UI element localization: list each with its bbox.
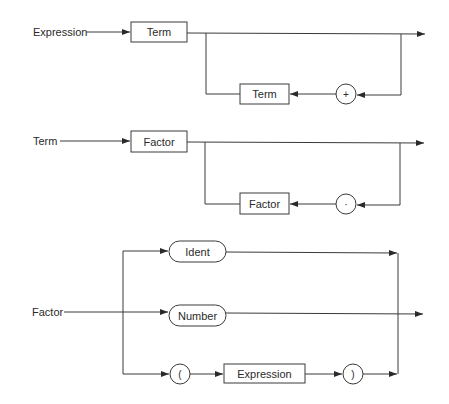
nonterminal-expression-box: Expression (224, 364, 305, 383)
loop-entry-line (357, 34, 401, 95)
loop-factor-box: Factor (240, 193, 289, 214)
loop-return-line (206, 33, 240, 94)
rule-expression: Expression Term Term + (33, 22, 425, 104)
rule-label-expression: Expression (33, 26, 87, 38)
svg-text:Number: Number (178, 310, 217, 322)
exit-arrow (187, 33, 425, 34)
rule-factor: Factor Ident Number ( Expression (32, 241, 423, 384)
svg-text:): ) (351, 369, 354, 380)
loop-entry-line (357, 143, 400, 205)
open-paren-circle: ( (170, 364, 190, 384)
loop-term-box: Term (240, 84, 289, 104)
svg-text:Factor: Factor (249, 198, 281, 210)
terminal-ident-pill: Ident (169, 241, 226, 262)
svg-text:Expression: Expression (237, 368, 291, 380)
loop-return-line (205, 142, 240, 204)
rule-label-factor: Factor (32, 306, 64, 318)
exit-arrow (187, 142, 424, 143)
close-paren-circle: ) (343, 364, 363, 384)
svg-text:Factor: Factor (143, 136, 175, 148)
nonterminal-term-box: Term (131, 22, 187, 42)
syntax-diagrams: Expression Term Term + Term Factor (0, 0, 449, 404)
svg-text:Ident: Ident (185, 246, 209, 258)
exit-arrow (226, 313, 423, 314)
rule-label-term: Term (33, 135, 57, 147)
svg-text:Term: Term (252, 88, 276, 100)
rule-term: Term Factor Factor · (33, 131, 424, 214)
nonterminal-factor-box: Factor (131, 131, 187, 152)
svg-text:·: · (344, 199, 347, 210)
plus-operator-circle: + (336, 84, 356, 104)
svg-text:Term: Term (147, 26, 171, 38)
terminal-number-pill: Number (169, 305, 226, 326)
multiply-operator-circle: · (336, 194, 356, 214)
svg-text:+: + (343, 89, 349, 100)
